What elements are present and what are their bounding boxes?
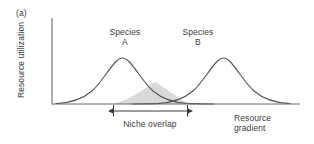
species-a-id: A	[103, 37, 147, 47]
niche-overlap-arrow	[114, 105, 188, 117]
niche-overlap-label: Niche overlap	[105, 119, 195, 129]
figure-panel: (a) Resource utilization Species A Speci…	[0, 0, 314, 144]
x-axis-label: Resource gradient	[234, 113, 312, 133]
species-b-label: Species B	[176, 27, 220, 47]
species-b-id: B	[176, 37, 220, 47]
y-axis-label: Resource utilization	[16, 12, 26, 108]
species-a-name: Species	[103, 27, 147, 37]
species-b-name: Species	[176, 27, 220, 37]
x-axis-label-line2: gradient	[234, 123, 312, 133]
species-a-label: Species A	[103, 27, 147, 47]
x-axis-label-line1: Resource	[234, 113, 312, 123]
